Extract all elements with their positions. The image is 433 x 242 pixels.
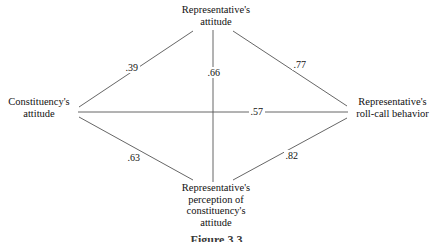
edge-label-representative-attitude-to-perception: .66 [206,67,222,78]
node-representative-attitude: Representative's attitude [160,4,272,27]
node-line: roll-call behavior [352,108,433,120]
node-constituency-attitude: Constituency's attitude [0,96,78,119]
node-line: attitude [0,108,78,120]
edge-line-constituency-to-perception [79,117,193,180]
figure-container: Constituency's attitude Representative's… [0,0,433,242]
node-perception-of-constituency-attitude: Representative's perception of constitue… [162,182,270,228]
node-line: constituency's [162,205,270,217]
node-line: Constituency's [0,96,78,108]
edge-line-representative-attitude-to-rollcall [233,31,347,106]
node-line: perception of [162,194,270,206]
figure-caption: Figure 3.3 [0,234,433,242]
edge-line-perception-to-rollcall [233,118,347,180]
edge-label-constituency-to-perception: .63 [126,152,142,163]
edge-label-perception-to-rollcall: .82 [284,150,300,161]
node-line: Representative's [162,182,270,194]
edge-label-constituency-to-representative-attitude: .39 [124,62,140,73]
edge-label-constituency-to-rollcall: .57 [249,106,265,117]
node-line: Representative's [160,4,272,16]
node-line: attitude [162,217,270,229]
node-line: Representative's [352,96,433,108]
edge-label-representative-attitude-to-rollcall: .77 [292,59,308,70]
node-rollcall-behavior: Representative's roll-call behavior [352,96,433,119]
node-line: attitude [160,16,272,28]
